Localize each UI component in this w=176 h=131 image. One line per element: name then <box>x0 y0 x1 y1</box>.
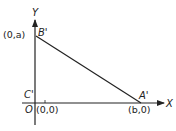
y-axis-label: Y <box>32 7 39 18</box>
x-axis-label: X <box>165 98 174 109</box>
coordinate-diagram: Y X (0,a) B' C' O (0,0) A' (b,0) <box>0 0 176 131</box>
point-b-label: B' <box>38 27 48 38</box>
segment-b-a <box>36 36 141 103</box>
point-a-coord: (b,0) <box>128 104 151 115</box>
origin-label: O <box>25 104 33 115</box>
point-c-label: C' <box>24 89 34 100</box>
point-c-coord: (0,0) <box>36 104 59 115</box>
point-a-label: A' <box>138 90 149 101</box>
point-b-coord: (0,a) <box>3 29 25 40</box>
